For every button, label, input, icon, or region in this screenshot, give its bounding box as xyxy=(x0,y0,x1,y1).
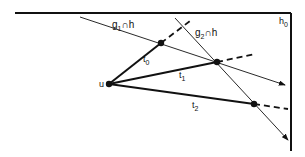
halfplane-boundary-h0 xyxy=(15,13,291,151)
label-g2-cap-h: g2∩h xyxy=(195,27,217,40)
label-g1-cap-h: g1∩h xyxy=(112,19,134,32)
point-u xyxy=(106,81,112,87)
label-t1: t1 xyxy=(179,70,186,82)
extension-t0 xyxy=(161,21,190,43)
extension-t1 xyxy=(217,54,255,62)
segment-t2 xyxy=(109,84,254,104)
label-t2: t2 xyxy=(192,100,199,112)
line-g2-cap-h xyxy=(175,18,288,140)
point-t0-end xyxy=(158,40,164,46)
point-t2-end xyxy=(251,101,257,107)
label-h0: h0 xyxy=(279,16,288,28)
geometry-diagram: g1∩h g2∩h h0 u t0 t1 t2 xyxy=(0,0,305,157)
segment-t1 xyxy=(109,62,217,84)
point-t1-end xyxy=(214,59,220,65)
label-u: u xyxy=(99,79,104,89)
